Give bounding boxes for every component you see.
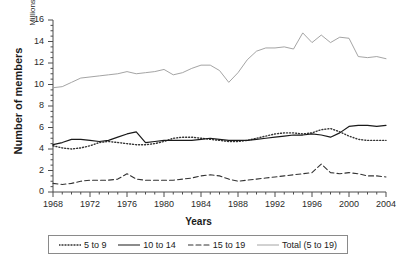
legend-item[interactable]: Total (5 to 19) bbox=[257, 240, 337, 250]
x-axis-title: Years bbox=[0, 216, 397, 227]
x-tick-label: 1980 bbox=[144, 200, 184, 209]
legend-swatch-solid bbox=[118, 241, 140, 249]
x-tick-label: 1972 bbox=[70, 200, 110, 209]
legend-swatch-solid-thin bbox=[257, 241, 279, 249]
legend-item-label: 15 to 19 bbox=[213, 240, 246, 250]
y-tick-label: 6 bbox=[22, 123, 44, 132]
chart-legend: 5 to 910 to 1415 to 19Total (5 to 19) bbox=[48, 235, 348, 254]
line-chart: Number of members Millions 0246810121416… bbox=[0, 0, 397, 263]
legend-swatch-dashed bbox=[188, 241, 210, 249]
x-tick-label: 1988 bbox=[218, 200, 258, 209]
series-line-total-5-to-19 bbox=[53, 33, 386, 88]
x-tick-label: 2000 bbox=[329, 200, 369, 209]
x-tick-label: 1984 bbox=[181, 200, 221, 209]
y-tick-label: 14 bbox=[22, 37, 44, 46]
legend-item-label: 10 to 14 bbox=[143, 240, 176, 250]
y-tick-label: 0 bbox=[22, 187, 44, 196]
x-tick-label: 2004 bbox=[366, 200, 397, 209]
legend-item-label: Total (5 to 19) bbox=[282, 240, 337, 250]
legend-item[interactable]: 10 to 14 bbox=[118, 240, 176, 250]
y-tick-label: 12 bbox=[22, 58, 44, 67]
x-tick-label: 1992 bbox=[255, 200, 295, 209]
y-tick-label: 2 bbox=[22, 166, 44, 175]
x-tick-label: 1968 bbox=[33, 200, 73, 209]
legend-item[interactable]: 15 to 19 bbox=[188, 240, 246, 250]
y-tick-label: 4 bbox=[22, 144, 44, 153]
series-line-15-to-19 bbox=[53, 164, 386, 184]
y-tick-label: 10 bbox=[22, 80, 44, 89]
x-tick-label: 1996 bbox=[292, 200, 332, 209]
y-tick-label: 16 bbox=[22, 15, 44, 24]
y-tick-label: 8 bbox=[22, 101, 44, 110]
legend-item[interactable]: 5 to 9 bbox=[59, 240, 107, 250]
legend-item-label: 5 to 9 bbox=[84, 240, 107, 250]
legend-swatch-dotted bbox=[59, 241, 81, 249]
x-tick-label: 1976 bbox=[107, 200, 147, 209]
